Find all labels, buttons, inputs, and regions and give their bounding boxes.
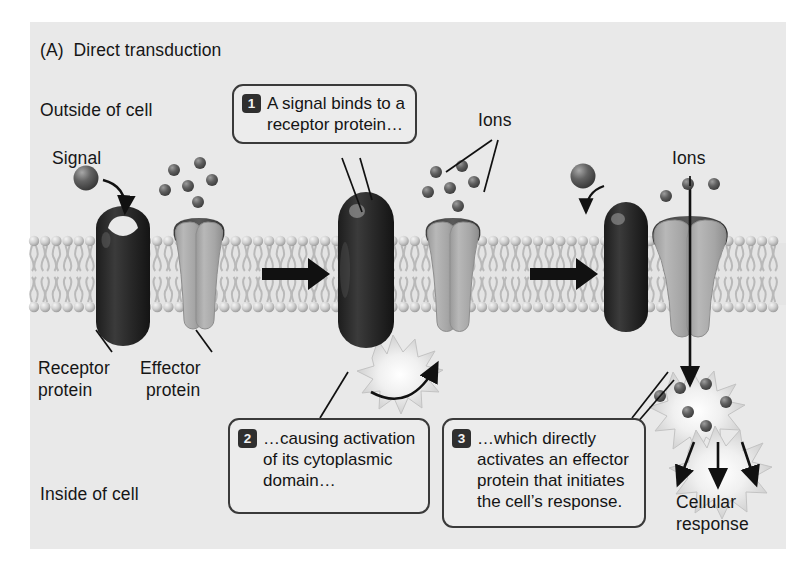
label-signal: Signal bbox=[52, 148, 101, 169]
callout-2-line-3: domain… bbox=[263, 470, 336, 492]
callout-2-badge: 2 bbox=[238, 429, 257, 448]
callout-3-line-4: the cell’s response. bbox=[477, 491, 622, 513]
callout-1: 1 A signal binds to a receptor protein… bbox=[232, 84, 417, 144]
label-ions-right: Ions bbox=[672, 148, 705, 169]
label-outside-of-cell: Outside of cell bbox=[40, 100, 152, 121]
figure-container: (A) Direct transduction Outside of cell … bbox=[0, 0, 808, 577]
callout-3-line-2: activates an effector bbox=[477, 449, 629, 471]
label-receptor-protein-line1: Receptor bbox=[38, 358, 110, 379]
label-ions-middle: Ions bbox=[478, 110, 511, 131]
callout-1-line-1: A signal binds to a bbox=[267, 93, 405, 115]
label-cellular-response-line2: response bbox=[676, 514, 749, 535]
label-effector-protein-line2: protein bbox=[146, 380, 200, 401]
callout-1-line-2: receptor protein… bbox=[267, 114, 403, 136]
callout-3-line-1: …which directly bbox=[477, 428, 596, 450]
callout-3-line-3: protein that initiates bbox=[477, 470, 624, 492]
callout-3: 3 …which directly activates an effector … bbox=[442, 418, 646, 528]
label-cellular-response-line1: Cellular bbox=[676, 492, 736, 513]
callout-2-line-1: …causing activation bbox=[263, 428, 415, 450]
figure-title: (A) Direct transduction bbox=[40, 40, 221, 61]
callout-1-badge: 1 bbox=[242, 94, 261, 113]
callout-3-badge: 3 bbox=[452, 429, 471, 448]
callout-2-line-2: of its cytoplasmic bbox=[263, 449, 392, 471]
callout-2: 2 …causing activation of its cytoplasmic… bbox=[228, 418, 430, 514]
label-receptor-protein-line2: protein bbox=[38, 380, 92, 401]
label-inside-of-cell: Inside of cell bbox=[40, 484, 139, 505]
label-effector-protein-line1: Effector bbox=[140, 358, 201, 379]
